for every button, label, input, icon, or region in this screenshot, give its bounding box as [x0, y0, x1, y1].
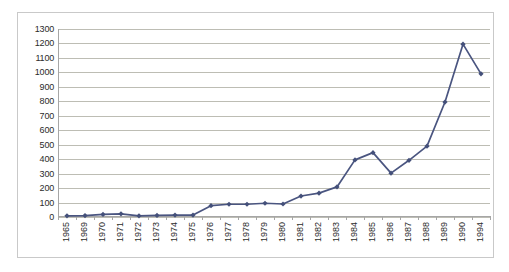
y-axis-tick-label: 1200 — [10, 39, 54, 48]
x-axis-tick-mark — [364, 216, 365, 220]
gridline — [58, 130, 490, 131]
x-axis-tick-mark — [76, 216, 77, 220]
x-axis-tick-mark — [436, 216, 437, 220]
x-axis-tick-mark — [382, 216, 383, 220]
x-axis-tick-label: 1984 — [350, 222, 359, 242]
x-axis-tick-label: 1972 — [134, 222, 143, 242]
x-axis-tick-mark — [274, 216, 275, 220]
x-axis-tick-label: 1981 — [296, 222, 305, 242]
x-axis-tick-label: 1980 — [278, 222, 287, 242]
x-axis-tick-mark — [490, 216, 491, 220]
gridline — [58, 116, 490, 117]
y-axis-tick-label: 700 — [10, 112, 54, 121]
x-axis-tick-label: 1978 — [242, 222, 251, 242]
gridline — [58, 43, 490, 44]
x-axis-tick-mark — [148, 216, 149, 220]
x-axis-tick-label: 1986 — [386, 222, 395, 242]
gridline — [58, 72, 490, 73]
y-axis-tick-label: 900 — [10, 83, 54, 92]
y-axis-tick-label: 600 — [10, 126, 54, 135]
x-axis-tick-label: 1965 — [62, 222, 71, 242]
x-axis-tick-label: 1983 — [332, 222, 341, 242]
x-axis-tick-mark — [472, 216, 473, 220]
x-axis-tick-label: 1973 — [152, 222, 161, 242]
gridline — [58, 174, 490, 175]
x-axis-tick-label: 1974 — [170, 222, 179, 242]
x-axis-tick-label: 1994 — [476, 222, 485, 242]
gridline — [58, 145, 490, 146]
y-axis-tick-label: 1000 — [10, 68, 54, 77]
x-axis-tick-mark — [256, 216, 257, 220]
y-axis-line — [58, 29, 59, 218]
x-axis-tick-label: 1970 — [98, 222, 107, 242]
x-axis-tick-label: 1988 — [422, 222, 431, 242]
x-axis-tick-label: 1985 — [368, 222, 377, 242]
y-axis-tick-label: 400 — [10, 155, 54, 164]
x-axis-tick-label: 1977 — [224, 222, 233, 242]
x-axis-tick-mark — [454, 216, 455, 220]
y-axis-tick-label: 500 — [10, 141, 54, 150]
y-axis-tick-label: 0 — [10, 213, 54, 222]
x-axis-tick-mark — [184, 216, 185, 220]
x-axis-tick-mark — [346, 216, 347, 220]
x-axis-tick-mark — [112, 216, 113, 220]
y-axis-tick-label: 100 — [10, 199, 54, 208]
x-axis-tick-mark — [328, 216, 329, 220]
gridline — [58, 203, 490, 204]
gridline — [58, 101, 490, 102]
gridline — [58, 159, 490, 160]
x-axis-tick-mark — [166, 216, 167, 220]
gridline — [58, 188, 490, 189]
x-axis-tick-mark — [130, 216, 131, 220]
x-axis-tick-label: 1990 — [458, 222, 467, 242]
x-axis-tick-mark — [310, 216, 311, 220]
x-axis-tick-mark — [220, 216, 221, 220]
gridline — [58, 58, 490, 59]
x-axis-tick-mark — [202, 216, 203, 220]
x-axis-tick-label: 1982 — [314, 222, 323, 242]
x-axis-tick-label: 1976 — [206, 222, 215, 242]
x-axis-tick-mark — [238, 216, 239, 220]
x-axis-tick-label: 1987 — [404, 222, 413, 242]
x-axis-tick-mark — [292, 216, 293, 220]
x-axis-tick-mark — [94, 216, 95, 220]
y-axis-tick-labels: 0100200300400500600700800900100011001200… — [8, 0, 54, 246]
chart-root: 0100200300400500600700800900100011001200… — [0, 0, 509, 272]
y-axis-tick-label: 200 — [10, 184, 54, 193]
y-axis-tick-label: 800 — [10, 97, 54, 106]
gridline — [58, 87, 490, 88]
x-axis-tick-label: 1975 — [188, 222, 197, 242]
x-axis-tick-label: 1969 — [80, 222, 89, 242]
x-axis-tick-label: 1971 — [116, 222, 125, 242]
x-axis-tick-mark — [418, 216, 419, 220]
y-axis-tick-label: 1300 — [10, 25, 54, 34]
y-axis-tick-label: 300 — [10, 170, 54, 179]
plot-area — [58, 29, 490, 217]
x-axis-tick-label: 1989 — [440, 222, 449, 242]
x-axis-tick-label: 1979 — [260, 222, 269, 242]
gridline — [58, 29, 490, 30]
x-axis-tick-mark — [400, 216, 401, 220]
y-axis-tick-label: 1100 — [10, 54, 54, 63]
x-axis-tick-mark — [58, 216, 59, 220]
